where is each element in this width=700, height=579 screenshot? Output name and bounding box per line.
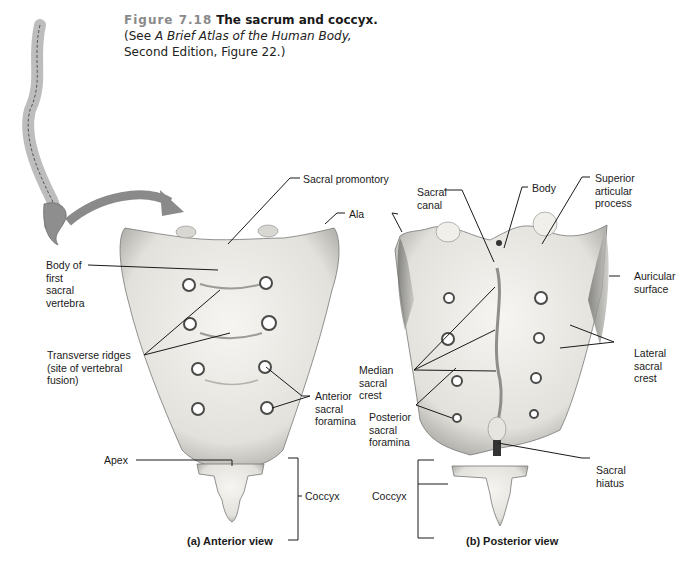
label-anterior-sacral-foramina: Anterior sacral foramina (315, 390, 356, 428)
label-median-sacral-crest: Median sacral crest (359, 364, 393, 402)
label-transverse-ridges: Transverse ridges (site of vertebral fus… (47, 349, 131, 387)
anterior-sacrum (120, 225, 339, 522)
label-superior-articular-process: Superior articular process (595, 172, 635, 210)
posterior-view-label: (b) Posterior view (466, 535, 558, 547)
sacrum-illustration (0, 0, 700, 579)
label-posterior-sacral-foramina: Posterior sacral foramina (369, 411, 411, 449)
label-body: Body (532, 182, 556, 195)
label-sacral-hiatus: Sacral hiatus (596, 464, 626, 489)
spine-thumbnail-icon (28, 25, 66, 245)
anterior-view-label: (a) Anterior view (187, 535, 273, 547)
label-ala: Ala (349, 208, 364, 221)
label-sacral-promontory: Sacral promontory (303, 173, 389, 186)
label-coccyx-anterior: Coccyx (305, 490, 339, 503)
label-auricular-surface: Auricular surface (634, 270, 675, 295)
label-sacral-canal: Sacral canal (417, 186, 447, 211)
label-lateral-sacral-crest: Lateral sacral crest (634, 347, 666, 385)
label-body-first-sacral-vertebra: Body of first sacral vertebra (46, 259, 85, 309)
label-apex: Apex (104, 454, 128, 467)
label-coccyx-posterior: Coccyx (372, 490, 406, 503)
posterior-sacrum (395, 212, 609, 526)
curved-arrow-icon (68, 190, 184, 222)
